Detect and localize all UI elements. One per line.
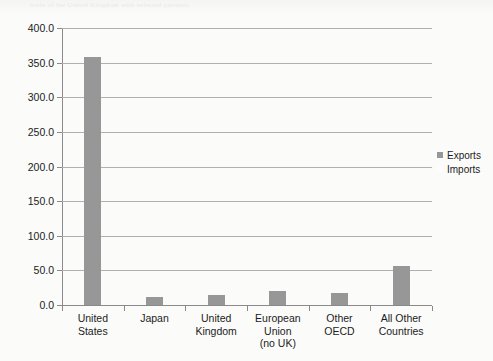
y-axis-tick-label: 150.0 <box>6 195 54 207</box>
y-axis-labels: 400.0350.0300.0250.0200.0150.0100.050.00… <box>2 28 54 306</box>
gridline <box>62 28 432 29</box>
bar <box>208 295 225 305</box>
bar <box>331 293 348 305</box>
bar-chart: trade of the United Kingdom with selecte… <box>0 0 493 361</box>
y-axis-tick <box>57 201 62 202</box>
y-axis-tick-label: 100.0 <box>6 230 54 242</box>
gridline <box>62 132 432 133</box>
bar <box>269 291 286 305</box>
y-axis-tick-label: 200.0 <box>6 161 54 173</box>
x-axis-category-label: All Other Countries <box>370 312 432 337</box>
x-axis-tick <box>247 306 248 311</box>
bar <box>393 266 410 305</box>
x-axis-tick <box>62 306 63 311</box>
bar <box>84 57 101 305</box>
y-axis-tick-label: 350.0 <box>6 57 54 69</box>
y-axis-tick <box>57 97 62 98</box>
x-axis-category-label: European Union (no UK) <box>247 312 309 350</box>
x-axis-tick <box>309 306 310 311</box>
legend-label: Imports <box>447 164 480 175</box>
y-axis-tick-label: 250.0 <box>6 126 54 138</box>
plot-area <box>62 28 432 305</box>
gridline <box>62 270 432 271</box>
legend-label: Exports <box>447 150 481 161</box>
x-axis-tick <box>370 306 371 311</box>
x-axis-category-label: Other OECD <box>309 312 371 337</box>
gridline <box>62 97 432 98</box>
y-axis-tick <box>57 236 62 237</box>
x-axis-category-label: United States <box>62 312 124 337</box>
x-axis-category-label: Japan <box>124 312 186 325</box>
x-axis-tick <box>185 306 186 311</box>
gridline <box>62 236 432 237</box>
legend-swatch-icon <box>437 166 443 172</box>
y-axis-tick <box>57 270 62 271</box>
gridline <box>62 201 432 202</box>
gridline <box>62 63 432 64</box>
x-axis-labels: United StatesJapanUnited KingdomEuropean… <box>62 312 432 358</box>
y-axis-tick-label: 0.0 <box>6 299 54 311</box>
y-axis-tick-label: 300.0 <box>6 91 54 103</box>
legend-item[interactable]: Exports <box>437 148 493 162</box>
legend-item[interactable]: Imports <box>437 162 493 176</box>
y-axis-tick-label: 50.0 <box>6 264 54 276</box>
y-axis-tick <box>57 167 62 168</box>
x-axis-category-label: United Kingdom <box>185 312 247 337</box>
x-axis-tick <box>124 306 125 311</box>
chart-legend: ExportsImports <box>437 148 493 176</box>
legend-swatch-icon <box>437 152 443 158</box>
gridline <box>62 167 432 168</box>
x-axis-tick <box>432 306 433 311</box>
y-axis-tick <box>57 63 62 64</box>
ghost-bleedthrough-text: trade of the United Kingdom with selecte… <box>30 1 460 9</box>
y-axis-tick <box>57 132 62 133</box>
bar <box>146 297 163 305</box>
y-axis-tick <box>57 28 62 29</box>
y-axis-tick-label: 400.0 <box>6 22 54 34</box>
y-axis-tick <box>57 305 62 306</box>
